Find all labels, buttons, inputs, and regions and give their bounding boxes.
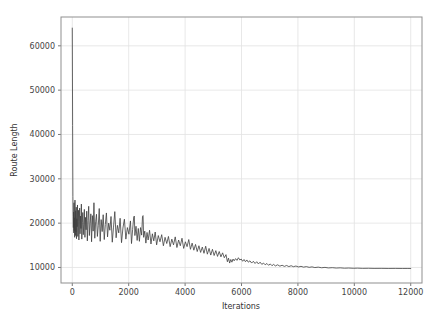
y-axis-title: Route Length (10, 123, 19, 176)
x-tick-label: 8000 (288, 288, 308, 297)
route-length-line-chart: 020004000600080001000012000 100002000030… (0, 0, 442, 321)
y-tick-label: 50000 (30, 86, 55, 95)
y-tick-label: 30000 (30, 175, 55, 184)
x-axis-title: Iterations (222, 302, 260, 311)
x-tick-label: 6000 (231, 288, 251, 297)
y-tick-label: 60000 (30, 42, 55, 51)
x-tick-label: 2000 (119, 288, 139, 297)
x-tick-label: 12000 (398, 288, 423, 297)
y-tick-label: 20000 (30, 219, 55, 228)
y-tick-label: 40000 (30, 130, 55, 139)
x-tick-label: 10000 (342, 288, 367, 297)
chart-figure: 020004000600080001000012000 100002000030… (0, 0, 442, 321)
x-tick-label: 0 (70, 288, 75, 297)
x-tick-label: 4000 (175, 288, 195, 297)
y-tick-label: 10000 (30, 263, 55, 272)
